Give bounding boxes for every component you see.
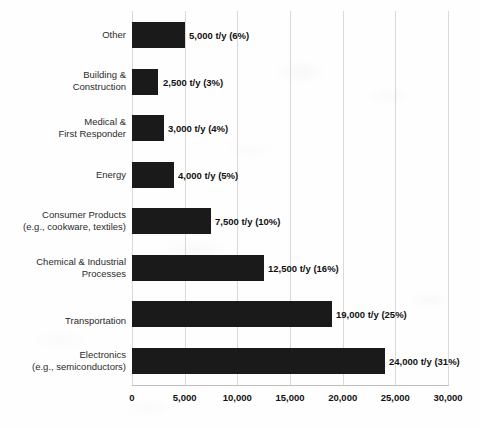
bar-energy [132, 162, 174, 188]
value-label-medical-first-responder: 3,000 t/y (4%) [168, 123, 228, 134]
bar-transportation [132, 301, 332, 327]
value-label-transportation: 19,000 t/y (25%) [336, 309, 407, 320]
gridline-0 [132, 11, 133, 385]
bar-building-construction [132, 69, 158, 95]
gridline-5000 [185, 11, 186, 385]
value-label-consumer-products: 7,500 t/y (10%) [215, 216, 280, 227]
bar-other [132, 22, 185, 48]
bar-electronics [132, 348, 385, 374]
gridline-25000 [395, 11, 396, 385]
category-label-chemical-industrial-processes: Chemical & Industrial Processes [0, 256, 126, 279]
plot-area [132, 11, 448, 385]
category-label-electronics: Electronics (e.g., semiconductors) [0, 349, 126, 372]
xtick-label-5000: 5,000 [155, 392, 215, 403]
xtick-label-30000: 30,000 [418, 392, 478, 403]
category-label-consumer-products: Consumer Products (e.g., cookware, texti… [0, 209, 126, 232]
category-label-medical-first-responder: Medical & First Responder [0, 116, 126, 139]
xtick-label-10000: 10,000 [207, 392, 267, 403]
xtick-label-0: 0 [102, 392, 162, 403]
value-label-building-construction: 2,500 t/y (3%) [163, 77, 223, 88]
gridline-10000 [237, 11, 238, 385]
x-axis-line [132, 385, 449, 386]
category-label-energy: Energy [0, 169, 126, 181]
value-label-chemical-industrial-processes: 12,500 t/y (16%) [268, 263, 339, 274]
gridline-15000 [290, 11, 291, 385]
bar-chemical-industrial-processes [132, 255, 264, 281]
xtick-label-20000: 20,000 [313, 392, 373, 403]
gridline-20000 [343, 11, 344, 385]
y-axis-category-labels: Other Building & Construction Medical & … [0, 0, 126, 428]
gridline-30000 [448, 11, 449, 385]
bar-consumer-products [132, 208, 211, 234]
bar-medical-first-responder [132, 115, 164, 141]
value-label-energy: 4,000 t/y (5%) [178, 170, 238, 181]
bar-chart: Other Building & Construction Medical & … [0, 0, 480, 428]
value-label-electronics: 24,000 t/y (31%) [389, 356, 460, 367]
category-label-other: Other [0, 29, 126, 41]
category-label-building-construction: Building & Construction [0, 69, 126, 92]
xtick-label-25000: 25,000 [365, 392, 425, 403]
value-label-other: 5,000 t/y (6%) [189, 30, 249, 41]
xtick-label-15000: 15,000 [260, 392, 320, 403]
category-label-transportation: Transportation [0, 315, 126, 327]
